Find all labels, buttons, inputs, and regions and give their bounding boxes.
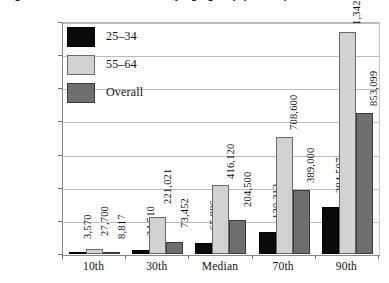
bar [86,249,103,254]
x-axis-tick [188,255,189,259]
bar-group: 65,886416,120204,500 [188,22,251,254]
bar-value-label: 1,342,003 [352,0,363,25]
bar-value-label: 27,700 [100,206,111,236]
bar [69,252,86,254]
bar-value-label: 221,021 [163,168,174,204]
x-axis-tick [315,255,316,259]
bar [339,32,356,254]
bar [195,243,212,254]
bar-value-label: 3,570 [83,214,94,239]
bar-group: 130,213708,600389,000 [252,22,315,254]
bar-value-label: 853,099 [369,71,380,107]
bar-group: 24,510221,02173,452 [125,22,188,254]
bar-chart: Figure: Net worth distribution by age gr… [0,0,389,283]
bar [229,220,246,254]
bar-group: 284,5071,342,003853,099 [315,22,378,254]
bar [103,252,120,254]
bar [356,113,373,254]
x-axis-tick [62,255,63,259]
x-axis-tick [125,255,126,259]
x-axis-tick [378,255,379,259]
bar-value-label: 708,600 [289,95,300,131]
bar [166,242,183,254]
bar-group: 3,57027,7008,817 [62,22,125,254]
x-axis-label-90th: 90th [311,260,381,272]
bar [276,137,293,254]
chart-title: Figure: Net worth distribution by age gr… [4,0,288,1]
x-axis-label-30th: 30th [122,260,192,272]
x-axis-label-median: Median [185,260,255,272]
x-axis-label-70th: 70th [248,260,318,272]
bar [149,217,166,254]
x-axis-label-10th: 10th [59,260,129,272]
bar [212,185,229,254]
bar [132,250,149,254]
chart-title-strip: Figure: Net worth distribution by age gr… [0,0,389,13]
bar [322,207,339,254]
bar [259,232,276,254]
x-axis-tick [252,255,253,259]
bar-value-label: 416,120 [226,143,237,179]
bar [293,190,310,254]
